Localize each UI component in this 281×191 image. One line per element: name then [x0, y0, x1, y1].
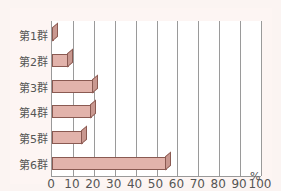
gridline	[219, 21, 220, 176]
x-axis-unit: %	[250, 170, 260, 183]
category-label: 第6群	[14, 156, 48, 172]
x-tick-label: 70	[190, 177, 205, 191]
category-label: 第4群	[14, 104, 48, 120]
category-label: 第5群	[14, 130, 48, 146]
bar	[52, 54, 69, 67]
gridline	[198, 21, 199, 176]
x-tick-label: 80	[211, 177, 226, 191]
bar	[52, 80, 94, 93]
x-tick-label: 10	[64, 177, 79, 191]
bar	[52, 105, 92, 118]
gridline	[73, 21, 74, 176]
gridline	[115, 21, 116, 176]
x-tick-label: 60	[169, 177, 184, 191]
bar	[52, 131, 83, 144]
gridline	[94, 21, 95, 176]
x-tick-label: 90	[231, 177, 246, 191]
x-tick-label: 50	[148, 177, 163, 191]
gridline	[177, 21, 178, 176]
bar	[52, 28, 54, 41]
bar	[52, 157, 167, 170]
category-label: 第3群	[14, 79, 48, 95]
category-label: 第1群	[14, 27, 48, 43]
x-tick-label: 20	[85, 177, 100, 191]
gridline	[157, 21, 158, 176]
gridline	[136, 21, 137, 176]
x-tick-label: 30	[106, 177, 121, 191]
category-label: 第2群	[14, 53, 48, 69]
plot-area	[51, 21, 261, 177]
x-tick-label: 0	[47, 177, 55, 191]
gridline	[240, 21, 241, 176]
gridline	[261, 21, 262, 176]
x-tick-label: 40	[127, 177, 142, 191]
